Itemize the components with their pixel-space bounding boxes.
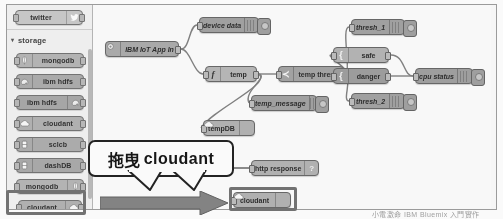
- port-out: [175, 46, 181, 54]
- palette-item-sclcb[interactable]: sclcb: [16, 137, 84, 152]
- flow-node-label: IBM IoT App In: [121, 46, 178, 53]
- flow-node-label: danger: [349, 73, 388, 80]
- port-out: [80, 183, 86, 191]
- port-in: [197, 22, 203, 30]
- port-out: [80, 141, 86, 149]
- palette-item-twitter[interactable]: twitter: [15, 10, 83, 25]
- palette-item-cloudant-1[interactable]: cloudant: [16, 116, 84, 131]
- debug-status-lamp[interactable]: [315, 96, 329, 113]
- port-in: [14, 99, 20, 107]
- palette-divider: [7, 29, 93, 30]
- flow-node-cloudant-dropped[interactable]: cloudant: [233, 192, 291, 208]
- debug-status-lamp[interactable]: [403, 94, 417, 111]
- palette-item-label: mongodb: [17, 183, 67, 190]
- port-in: [16, 204, 22, 209]
- flow-node-label: thresh_2: [352, 98, 389, 105]
- flow-node-label: temp: [221, 71, 256, 78]
- port-in: [349, 24, 355, 32]
- callout-en-text: cloudant: [144, 150, 215, 168]
- flow-node-label: temp_message: [252, 100, 309, 107]
- question-icon: ?: [304, 161, 318, 175]
- palette-item-label: ibm hdfs: [17, 99, 67, 106]
- port-in: [14, 120, 20, 128]
- palette-item-mongodb-1[interactable]: mongodb: [16, 53, 84, 68]
- node-palette-sidebar[interactable]: twitter ▾storage mongodb: [7, 5, 93, 209]
- port-out: [80, 57, 86, 65]
- flow-node-label: device data: [200, 22, 244, 29]
- flow-node-label: safe: [349, 52, 388, 59]
- flow-node-ibm-iot-app-in[interactable]: IBM IoT App In: [105, 41, 179, 57]
- flow-node-temp[interactable]: f temp: [205, 66, 257, 82]
- port-in: [249, 165, 255, 173]
- palette-scrollbar[interactable]: [88, 49, 92, 199]
- chevron-down-icon: ▾: [11, 33, 18, 47]
- port-in: [14, 141, 20, 149]
- grip-icon: [457, 69, 472, 83]
- port-in: [14, 57, 20, 65]
- port-out: [253, 71, 259, 79]
- flow-node-label: http response: [252, 165, 304, 172]
- palette-item-label: twitter: [16, 14, 66, 21]
- callout-tails: [110, 170, 220, 192]
- port-out: [80, 78, 86, 86]
- palette-item-label: ibm hdfs: [33, 78, 83, 85]
- port-out: [385, 73, 391, 81]
- port-in: [276, 71, 282, 79]
- port-out: [80, 120, 86, 128]
- port-in: [331, 52, 337, 60]
- port-in: [349, 98, 355, 106]
- palette-group-storage[interactable]: ▾storage: [11, 34, 89, 48]
- palette-item-ibm-hdfs-2[interactable]: ibm hdfs: [16, 95, 84, 110]
- port-out: [80, 99, 86, 107]
- palette-item-ibm-hdfs-1[interactable]: ibm hdfs: [16, 74, 84, 89]
- flow-node-safe[interactable]: { safe: [333, 47, 389, 63]
- palette-item-label: mongodb: [33, 57, 83, 64]
- flow-node-label: cpu status: [416, 73, 457, 80]
- palette-item-cloudant-2[interactable]: cloudant: [18, 200, 82, 209]
- flow-node-cpu-status[interactable]: cpu status: [415, 68, 473, 84]
- drag-direction-arrow: [100, 191, 228, 215]
- grip-icon: [244, 18, 258, 32]
- port-out: [78, 204, 84, 209]
- port-in: [203, 71, 209, 79]
- port-in: [13, 14, 19, 22]
- grip-icon: [389, 20, 404, 34]
- palette-item-dashdb[interactable]: dashDB: [16, 158, 84, 173]
- palette-item-label: cloudant: [33, 120, 83, 127]
- flow-node-label: thresh_1: [352, 24, 389, 31]
- flow-node-thresh-1[interactable]: thresh_1: [351, 19, 405, 35]
- palette-item-mongodb-2[interactable]: mongodb: [16, 179, 84, 194]
- port-out: [385, 52, 391, 60]
- grip-icon: [389, 94, 404, 108]
- port-in: [14, 78, 20, 86]
- cloud-icon: [239, 121, 254, 135]
- port-in: [413, 73, 419, 81]
- palette-group-label: storage: [18, 36, 47, 45]
- palette-item-label: cloudant: [19, 204, 65, 209]
- flow-node-temp-message[interactable]: temp_message: [251, 95, 317, 111]
- debug-status-lamp[interactable]: [257, 18, 271, 35]
- palette-item-label: sclcb: [33, 141, 83, 148]
- flow-node-danger[interactable]: { danger: [333, 68, 389, 84]
- port-in: [14, 183, 20, 191]
- flow-node-thresh-2[interactable]: thresh_2: [351, 93, 405, 109]
- port-in: [331, 73, 337, 81]
- callout-cn-text: 拖曳: [108, 147, 141, 171]
- port-in: [14, 162, 20, 170]
- flow-node-device-data[interactable]: device data: [199, 17, 259, 33]
- port-out: [80, 162, 86, 170]
- flow-node-tempdb[interactable]: tempDB: [203, 120, 255, 136]
- watermark-text: 小電激命 IBM Bluemix 入門實作: [372, 209, 500, 219]
- screenshot-root: twitter ▾storage mongodb: [0, 0, 503, 219]
- port-out: [79, 14, 85, 22]
- port-in: [249, 100, 255, 108]
- debug-status-lamp[interactable]: [403, 20, 417, 37]
- gear-icon: [106, 42, 121, 56]
- palette-item-label: dashDB: [33, 162, 83, 169]
- cloud-icon: [275, 193, 290, 207]
- flow-node-http-response[interactable]: http response ?: [251, 160, 319, 176]
- debug-status-lamp[interactable]: [471, 69, 485, 86]
